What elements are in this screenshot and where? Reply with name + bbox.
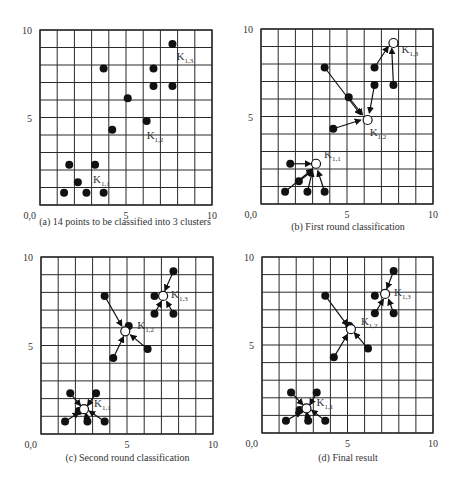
cluster-label: K1,1 [94, 397, 111, 412]
data-point [151, 310, 159, 318]
axis-ticks: 0,0510510 [23, 252, 218, 450]
cluster-label: K1,2 [137, 319, 154, 334]
data-point [321, 292, 329, 300]
cluster-label: K1,2 [361, 315, 378, 330]
svg-text:0,0: 0,0 [246, 438, 259, 449]
caption-c: (c) Second round classification [0, 452, 255, 463]
data-point [321, 188, 329, 196]
data-point [371, 309, 379, 317]
centroid-marker [302, 404, 311, 413]
cluster-label: K1,1 [316, 396, 333, 411]
svg-text:10: 10 [428, 209, 438, 220]
data-point [65, 161, 73, 169]
caption-d: (d) Final result [228, 452, 456, 463]
data-point [143, 117, 151, 125]
data-point [66, 389, 74, 397]
svg-text:10: 10 [244, 252, 254, 263]
data-point [303, 188, 311, 196]
panel-c: 0,0510510K1,1K1,2K1,3 (c) Second round c… [0, 240, 228, 480]
data-point [61, 418, 69, 426]
scatter-plot-b: 0,0510510K1,1K1,2K1,3 [228, 0, 456, 240]
caption-b: (b) First round classification [228, 221, 456, 232]
svg-text:10: 10 [208, 439, 218, 450]
data-point [108, 126, 116, 134]
svg-text:0,0: 0,0 [245, 209, 258, 220]
data-point [281, 188, 289, 196]
data-point [321, 417, 329, 425]
data-point [83, 418, 91, 426]
data-point [168, 82, 176, 90]
data-point [100, 189, 108, 197]
data-point [101, 418, 109, 426]
scatter-plot-d: 0,0510510K1,1K1,2K1,3 [228, 240, 456, 485]
grid [262, 257, 433, 433]
cluster-label: K1,1 [93, 173, 110, 188]
data-point [313, 389, 321, 397]
cluster-label: K1,2 [147, 129, 164, 144]
data-point [282, 417, 290, 425]
svg-text:0,0: 0,0 [25, 439, 38, 450]
cluster-labels: K1,1K1,2K1,3 [94, 288, 188, 412]
cluster-label: K1,3 [394, 286, 411, 301]
scatter-plot-c: 0,0510510K1,1K1,2K1,3 [0, 240, 228, 485]
data-point [330, 353, 338, 361]
centroid-marker [121, 327, 130, 336]
svg-text:5: 5 [249, 340, 254, 351]
data-point [124, 94, 132, 102]
data-point [390, 309, 398, 317]
data-point [287, 389, 295, 397]
svg-text:5: 5 [125, 439, 130, 450]
cluster-label: K1,3 [171, 288, 188, 303]
data-point [286, 160, 294, 168]
data-point [371, 81, 379, 89]
svg-text:5: 5 [345, 438, 350, 449]
svg-text:5: 5 [248, 112, 253, 123]
data-point [101, 292, 109, 300]
svg-text:10: 10 [22, 25, 32, 36]
svg-text:5: 5 [28, 341, 33, 352]
centroid-marker [312, 159, 321, 168]
data-point [169, 267, 177, 275]
data-point [100, 65, 108, 73]
svg-text:10: 10 [428, 438, 438, 449]
data-point [150, 65, 158, 73]
data-point [304, 417, 312, 425]
data-point [109, 354, 117, 362]
data-point [371, 292, 379, 300]
data-point [60, 189, 68, 197]
panel-a: 0,0510510K1,1K1,2K1,3 (a) 14 points to b… [0, 0, 228, 240]
axis-ticks: 0,0510510 [22, 25, 217, 221]
data-points [60, 40, 176, 197]
data-point [168, 40, 176, 48]
centroid-marker [363, 116, 372, 125]
scatter-plot-a: 0,0510510K1,1K1,2K1,3 [0, 0, 228, 240]
centroid-marker [346, 325, 355, 334]
axis-ticks: 0,0510510 [244, 252, 438, 449]
cluster-label: K1,1 [324, 148, 341, 163]
data-points [281, 64, 397, 196]
svg-text:10: 10 [243, 24, 253, 35]
centroid-marker [389, 39, 398, 48]
data-point [82, 189, 90, 197]
data-point [371, 64, 379, 72]
data-point [329, 125, 337, 133]
centroid-marker [381, 289, 390, 298]
data-point [295, 177, 303, 185]
data-point [144, 345, 152, 353]
panel-b: 0,0510510K1,1K1,2K1,3 (b) First round cl… [228, 0, 456, 240]
data-point [345, 93, 353, 101]
centroid-marker [80, 405, 89, 414]
panel-d: 0,0510510K1,1K1,2K1,3 (d) Final result [228, 240, 456, 480]
grid [41, 257, 213, 434]
svg-text:5: 5 [345, 209, 350, 220]
caption-a: (a) 14 points to be classified into 3 cl… [0, 216, 250, 227]
cluster-label: K1,2 [370, 126, 387, 141]
svg-text:10: 10 [23, 252, 33, 263]
svg-text:5: 5 [27, 113, 32, 124]
data-point [364, 345, 372, 353]
data-point [151, 292, 159, 300]
grid [261, 29, 433, 204]
data-point [150, 82, 158, 90]
data-point [92, 389, 100, 397]
cluster-label: K1,3 [176, 50, 193, 65]
